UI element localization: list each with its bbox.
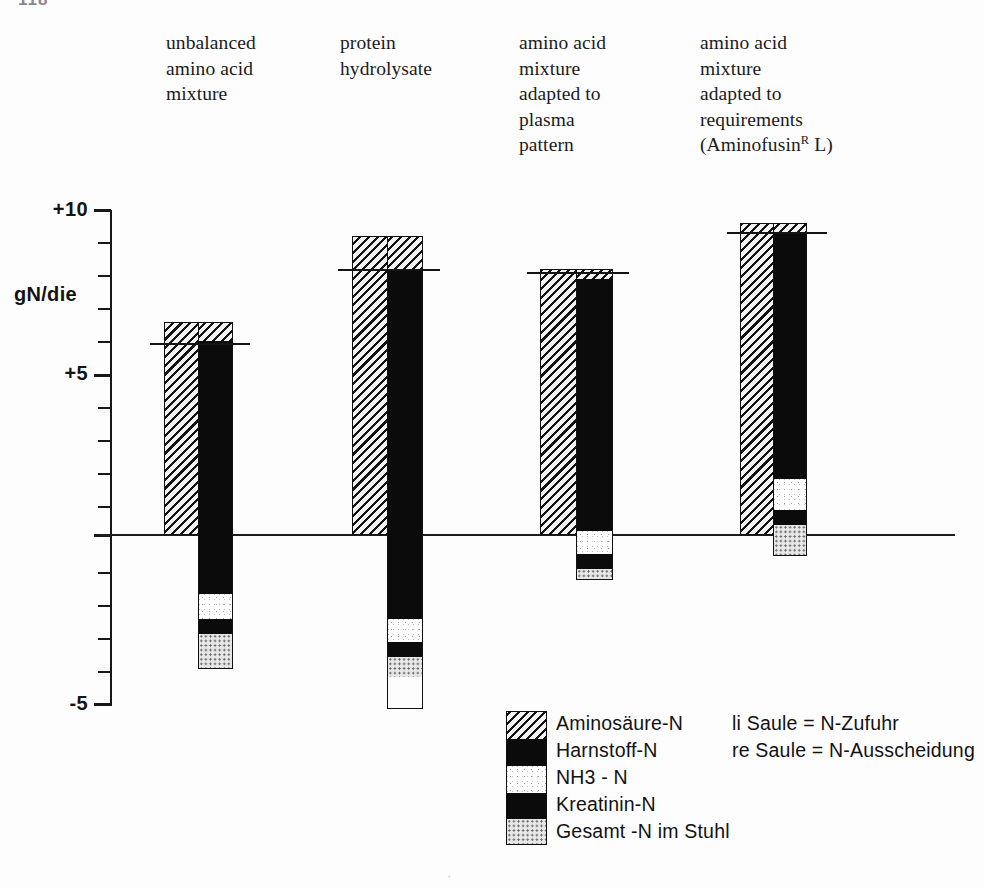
y-tick-label-minus-five: -5 — [0, 692, 88, 715]
legend-swatch-column — [506, 711, 547, 845]
segment-aminosaeure-n — [541, 270, 576, 535]
legend-swatch-nh3-n — [507, 766, 546, 793]
legend-swatch-aminosaeure-n — [507, 712, 546, 739]
y-tick-2 — [98, 473, 111, 475]
segment-gesamt-n-im-stuhl — [199, 634, 232, 669]
segment-harnstoff-n — [199, 341, 232, 594]
reference-line-plasma-pattern — [527, 272, 629, 274]
page-artifact: · — [447, 868, 457, 876]
legend-swatch-kreatinin-n — [507, 793, 546, 819]
segment-kreatinin-n — [577, 554, 612, 569]
bar-intake-plasma-pattern — [540, 269, 577, 535]
segment-nh3-n — [577, 531, 612, 554]
segment-harnstoff-n — [774, 234, 806, 479]
bar-excretion-plasma-pattern — [576, 269, 613, 580]
legend-label-gesamt-n-im-stuhl: Gesamt -N im Stuhl — [556, 820, 730, 843]
y-tick-neg1 — [98, 572, 111, 574]
legend-label-nh3-n: NH3 - N — [556, 766, 628, 789]
y-tick-4 — [98, 407, 111, 409]
segment-kreatinin-n — [774, 510, 806, 525]
bar-intake-requirements — [740, 223, 774, 535]
y-tick-neg5 — [94, 703, 111, 706]
reference-line-requirements — [727, 232, 827, 234]
y-tick-3 — [98, 440, 111, 442]
segment-aminosaeure-n — [388, 237, 422, 270]
bar-intake-hydrolysate — [352, 236, 388, 535]
y-axis-title: gN/die — [14, 283, 77, 306]
y-tick-6 — [98, 341, 111, 343]
bar-intake-unbalanced — [164, 322, 199, 535]
y-tick-neg2 — [98, 605, 111, 607]
y-tick-5 — [94, 374, 111, 377]
y-tick-neg4 — [98, 671, 111, 673]
y-tick-label-plus-ten: +10 — [0, 198, 88, 221]
figure-page: 118 unbalanced amino acid mixture protei… — [0, 0, 984, 889]
bar-excretion-unbalanced — [198, 322, 233, 669]
y-tick-8 — [98, 275, 111, 277]
y-tick-neg3 — [98, 638, 111, 640]
legend-note-left-column: li Saule = N-Zufuhr — [732, 712, 899, 735]
bar-excretion-hydrolysate — [387, 236, 423, 709]
y-tick-9 — [98, 242, 111, 244]
segment-aminosaeure-n — [353, 237, 387, 535]
bar-excretion-requirements — [773, 223, 807, 556]
segment-aminosaeure-n — [741, 224, 773, 535]
legend-swatch-harnstoff-n — [507, 739, 546, 766]
segment-nh3-n — [388, 619, 422, 642]
segment-harnstoff-n — [388, 270, 422, 619]
segment-kreatinin-n — [199, 619, 232, 634]
segment-kreatinin-n — [388, 642, 422, 657]
y-tick-1 — [98, 506, 111, 508]
segment-aminosaeure-n — [199, 323, 232, 341]
y-tick-7 — [98, 308, 111, 310]
reference-line-hydrolysate — [338, 269, 440, 271]
segment-gesamt-n-im-stuhl — [774, 525, 806, 556]
segment-gesamt-n-im-stuhl — [388, 657, 422, 677]
segment-aminosaeure-n — [165, 323, 198, 535]
legend-note-right-column: re Saule = N-Ausscheidung — [732, 739, 975, 762]
y-tick-label-plus-five: +5 — [0, 362, 88, 385]
legend-swatch-gesamt-n-im-stuhl — [507, 819, 546, 845]
segment-nh3-n — [199, 594, 232, 619]
segment-gesamt-n-im-stuhl — [577, 569, 612, 580]
legend-label-kreatinin-n: Kreatinin-N — [556, 793, 656, 816]
reference-line-unbalanced — [150, 343, 250, 345]
legend-label-aminosaeure-n: Aminosäure-N — [556, 712, 683, 735]
y-axis-line — [110, 210, 112, 706]
legend-label-harnstoff-n: Harnstoff-N — [556, 739, 658, 762]
y-tick-10 — [94, 209, 111, 212]
segment-harnstoff-n — [577, 279, 612, 531]
segment-nh3-n — [774, 479, 806, 510]
